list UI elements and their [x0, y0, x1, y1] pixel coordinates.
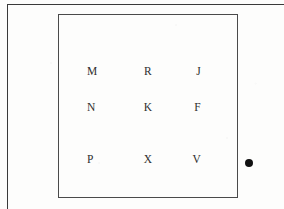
grid-cell: R — [123, 33, 173, 83]
grid-cell: V — [173, 133, 223, 183]
grid-cell: M — [73, 33, 123, 83]
grid-cell: N — [73, 83, 123, 133]
grid-cell: P — [73, 133, 123, 183]
filled-dot-marker — [245, 159, 253, 167]
letter-grid-box: M R J N K F P X V — [58, 14, 238, 198]
grid-cell: F — [173, 83, 223, 133]
letter-grid: M R J N K F P X V — [59, 15, 237, 197]
grid-cell: J — [173, 33, 223, 83]
figure-canvas: M R J N K F P X V — [0, 0, 284, 209]
grid-cell: X — [123, 133, 173, 183]
grid-cell: K — [123, 83, 173, 133]
